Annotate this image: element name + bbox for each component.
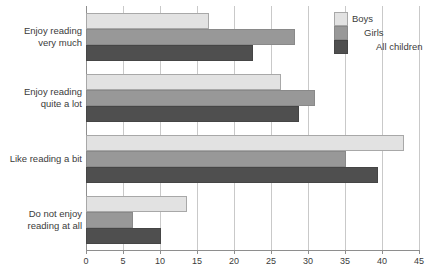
x-axis-tick bbox=[160, 250, 161, 254]
bar bbox=[86, 90, 315, 106]
x-axis-tick bbox=[271, 250, 272, 254]
x-axis-line bbox=[86, 250, 420, 251]
category-label-line: quite a lot bbox=[0, 98, 82, 110]
category-label: Do not enjoyreading at all bbox=[0, 208, 82, 231]
category-label-line: Do not enjoy bbox=[0, 208, 82, 220]
x-axis-tick bbox=[345, 250, 346, 254]
category-label-line: very much bbox=[0, 37, 82, 49]
x-axis-tick bbox=[86, 250, 87, 254]
bar bbox=[86, 196, 187, 212]
legend-swatch bbox=[334, 40, 348, 54]
bar-chart: Enjoy readingvery muchEnjoy readingquite… bbox=[0, 0, 433, 277]
x-axis-tick bbox=[234, 250, 235, 254]
bar bbox=[86, 135, 404, 151]
x-axis-tick-label: 35 bbox=[340, 256, 350, 267]
x-axis-tick-label: 20 bbox=[229, 256, 239, 267]
x-axis-tick bbox=[419, 250, 420, 254]
x-axis-tick-label: 15 bbox=[192, 256, 202, 267]
x-axis-tick-label: 45 bbox=[414, 256, 424, 267]
legend-label: Girls bbox=[364, 27, 384, 39]
bar bbox=[86, 212, 133, 228]
category-label-line: reading at all bbox=[0, 220, 82, 232]
bar bbox=[86, 29, 295, 45]
x-axis-tick bbox=[123, 250, 124, 254]
bar bbox=[86, 74, 281, 90]
category-label: Like reading a bit bbox=[0, 153, 82, 165]
legend-swatch bbox=[334, 26, 348, 40]
bar bbox=[86, 45, 253, 61]
x-axis-tick-label: 25 bbox=[266, 256, 276, 267]
x-axis-tick bbox=[382, 250, 383, 254]
chart-legend: BoysGirlsAll children bbox=[334, 12, 430, 56]
x-axis-tick-label: 10 bbox=[155, 256, 165, 267]
category-label-line: Enjoy reading bbox=[0, 25, 82, 37]
category-label: Enjoy readingquite a lot bbox=[0, 86, 82, 109]
bar bbox=[86, 167, 378, 183]
x-axis-tick-label: 40 bbox=[377, 256, 387, 267]
category-label: Enjoy readingvery much bbox=[0, 25, 82, 48]
category-label-line: Like reading a bit bbox=[0, 153, 82, 165]
x-axis-tick-label: 30 bbox=[303, 256, 313, 267]
legend-label: Boys bbox=[352, 13, 373, 25]
bar bbox=[86, 106, 299, 122]
gridline bbox=[308, 6, 309, 250]
category-axis-labels: Enjoy readingvery muchEnjoy readingquite… bbox=[0, 0, 82, 277]
bar bbox=[86, 13, 209, 29]
x-axis-tick bbox=[197, 250, 198, 254]
bar bbox=[86, 151, 346, 167]
x-axis-tick-label: 5 bbox=[120, 256, 125, 267]
category-label-line: Enjoy reading bbox=[0, 86, 82, 98]
x-axis-tick-label: 0 bbox=[83, 256, 88, 267]
bar bbox=[86, 228, 161, 244]
x-axis-tick bbox=[308, 250, 309, 254]
legend-label: All children bbox=[376, 41, 422, 53]
legend-swatch bbox=[334, 12, 348, 26]
